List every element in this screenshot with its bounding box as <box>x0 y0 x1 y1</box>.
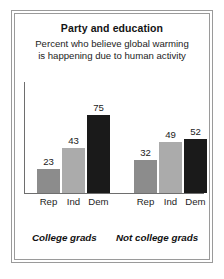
bar-value-label: 23 <box>43 156 54 167</box>
bar-value-label: 43 <box>68 135 79 146</box>
bar-rep: 23 <box>37 169 60 193</box>
bar-value-label: 32 <box>140 147 151 158</box>
bar-ind: 43 <box>62 148 85 193</box>
chart-figure: Party and education Percent who believe … <box>11 10 213 263</box>
bar-series-layer: 234375324952 <box>24 72 204 194</box>
bar-rect <box>159 142 182 193</box>
chart-subtitle-line-1: Percent who believe global warming <box>15 38 209 50</box>
bar-rep: 32 <box>134 160 157 193</box>
chart-subtitle: Percent who believe global warming is ha… <box>15 38 209 63</box>
bar-value-label: 75 <box>93 102 104 113</box>
x-tick-dem: Dem <box>180 196 211 207</box>
group-label-1: College grads <box>32 232 97 243</box>
bar-rect <box>134 160 157 193</box>
bar-rect <box>87 115 110 193</box>
bar-value-label: 49 <box>165 129 176 140</box>
bar-rect <box>184 139 207 193</box>
plot-area: 234375324952 <box>24 72 204 194</box>
chart-figure-inner-border: Party and education Percent who believe … <box>14 13 210 260</box>
x-axis-tick-labels: RepIndDemRepIndDem <box>24 196 204 212</box>
bar-rect <box>62 148 85 193</box>
group-labels: College gradsNot college grads <box>24 232 204 250</box>
bar-ind: 49 <box>159 142 182 193</box>
bar-rect <box>37 169 60 193</box>
bar-value-label: 52 <box>190 126 201 137</box>
bar-dem: 52 <box>184 139 207 193</box>
chart-title: Party and education <box>15 22 209 34</box>
group-label-2: Not college grads <box>116 232 198 243</box>
bar-dem: 75 <box>87 115 110 193</box>
chart-subtitle-line-2: is happening due to human activity <box>15 50 209 62</box>
x-tick-dem: Dem <box>83 196 114 207</box>
